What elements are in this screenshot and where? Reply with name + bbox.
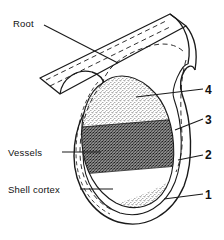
diagram-svg (0, 0, 224, 240)
label-vessels: Vessels (8, 148, 42, 158)
leader-line-1 (164, 194, 203, 199)
callout-number-4: 4 (205, 84, 212, 96)
label-shell-cortex: Shell cortex (8, 185, 60, 195)
figure-page: Root Vessels Shell cortex 4 3 2 1 (0, 0, 224, 240)
callout-number-3: 3 (205, 114, 212, 126)
callout-number-2: 2 (205, 149, 212, 161)
label-root: Root (13, 19, 34, 29)
callout-number-1: 1 (205, 189, 212, 201)
